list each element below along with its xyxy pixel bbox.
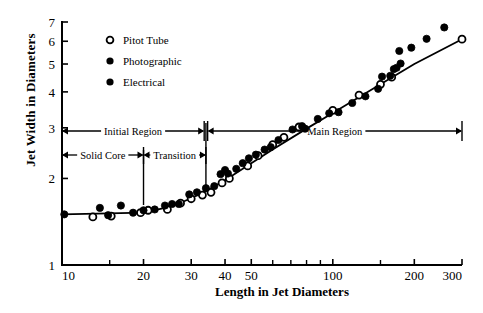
data-point-filled: [396, 47, 403, 54]
x-tick-label: 100: [323, 268, 343, 283]
data-point-filled: [301, 125, 308, 132]
data-point-filled: [161, 202, 168, 209]
data-point-filled: [335, 109, 342, 116]
legend-marker-filled-circle: [106, 78, 113, 85]
data-point-filled: [362, 93, 369, 100]
data-point-filled: [378, 73, 385, 80]
y-tick-label: 4: [49, 85, 56, 100]
data-point-filled: [233, 165, 240, 172]
data-point-open: [356, 92, 363, 99]
data-point-filled: [375, 85, 382, 92]
data-point-filled: [151, 206, 158, 213]
data-point-open: [89, 213, 96, 220]
data-point-filled: [275, 136, 282, 143]
data-point-filled: [408, 44, 415, 51]
data-point-filled: [193, 189, 200, 196]
data-point-filled: [168, 200, 175, 207]
data-point-filled: [289, 126, 296, 133]
data-point-filled: [202, 185, 209, 192]
x-tick-label: 30: [185, 268, 198, 283]
y-tick-label: 3: [49, 121, 56, 136]
data-point-filled: [175, 200, 182, 207]
data-point-filled: [211, 183, 218, 190]
x-tick-label: 20: [137, 268, 150, 283]
data-point-filled: [314, 115, 321, 122]
data-point-filled: [61, 211, 68, 218]
data-point-filled: [252, 151, 259, 158]
data-point-filled: [423, 35, 430, 42]
data-point-filled: [239, 160, 246, 167]
data-point-filled: [267, 144, 274, 151]
x-tick-label: 300: [443, 268, 463, 283]
y-tick-label: 2: [49, 171, 56, 186]
data-point-open: [459, 36, 466, 43]
x-axis-title: Length in Jet Diameters: [215, 284, 349, 300]
data-point-filled: [397, 60, 404, 67]
data-point-filled: [387, 72, 394, 79]
data-point-filled: [186, 191, 193, 198]
data-point-filled: [441, 24, 448, 31]
y-axis-title: Jet Width in Diameters: [23, 25, 39, 175]
data-point-filled: [245, 155, 252, 162]
legend-label: Photographic: [123, 55, 182, 67]
region-annotation-label: Main Region: [307, 126, 363, 137]
data-point-filled: [326, 110, 333, 117]
region-annotation-label: Solid Core: [80, 150, 126, 161]
legend-label: Electrical: [123, 76, 165, 88]
x-tick-label: 40: [219, 268, 232, 283]
data-point-filled: [129, 209, 136, 216]
data-point-filled: [349, 99, 356, 106]
y-tick-label: 1: [49, 258, 56, 273]
data-point-filled: [96, 204, 103, 211]
data-point-filled: [117, 202, 124, 209]
region-annotation-label: Initial Region: [104, 126, 163, 137]
legend-label: Pitot Tube: [123, 34, 169, 46]
data-point-filled: [105, 212, 112, 219]
region-annotation-label: Transition: [153, 150, 197, 161]
data-point-open: [219, 179, 226, 186]
data-point-filled: [224, 170, 231, 177]
y-tick-label: 6: [49, 34, 56, 49]
y-tick-label: 7: [49, 15, 56, 30]
data-point-filled: [140, 207, 147, 214]
legend-marker-filled-circle: [106, 57, 113, 64]
y-tick-label: 5: [49, 57, 56, 72]
chart-figure: 10203040501002003001234567 Initial Regio…: [0, 0, 483, 313]
x-tick-label: 200: [405, 268, 425, 283]
chart-canvas: 10203040501002003001234567 Initial Regio…: [0, 0, 483, 313]
legend-marker-open-circle: [107, 37, 114, 44]
x-tick-label: 50: [245, 268, 258, 283]
x-tick-label: 10: [62, 268, 75, 283]
